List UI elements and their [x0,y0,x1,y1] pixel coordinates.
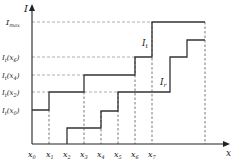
y-axis-arrow-icon [29,4,35,11]
label-it-x2: It(x2) [1,89,20,98]
tick-x1: x1 [46,150,54,160]
tick-x7: x7 [148,150,157,160]
label-it-x4: It(x4) [1,72,20,81]
vertical-guides [49,22,205,144]
label-imax: Imax [5,18,20,28]
curve-label-Ir: Ir [159,77,168,88]
tick-x0: x0 [28,150,37,160]
tick-x3: x3 [80,150,88,160]
x-axis-label: x [226,148,231,158]
x-tick-labels: x0 x1 x2 x3 x4 x5 x6 x7 [28,150,157,160]
horizontal-guides [32,22,152,92]
label-it-x0: It(x0) [1,107,20,116]
tick-x6: x6 [131,150,140,160]
step-diagram: I x Imax It(x6) It(x4) It(x2) It(x0) x0 … [0,0,239,164]
y-level-labels: Imax It(x6) It(x4) It(x2) It(x0) [1,18,20,116]
label-it-x6: It(x6) [1,54,20,63]
x-axis-arrow-icon [223,141,230,147]
y-axis-label: I [23,3,29,14]
tick-x4: x4 [97,150,105,160]
tick-x5: x5 [114,150,122,160]
axes [32,8,224,144]
tick-x2: x2 [63,150,71,160]
curve-Ir [67,40,205,144]
curve-label-It: It [141,38,149,49]
